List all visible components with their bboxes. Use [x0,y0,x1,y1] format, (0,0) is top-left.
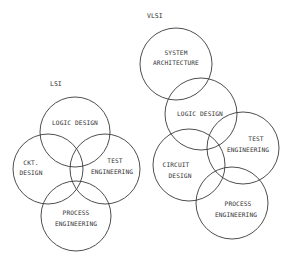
lsi-test-label-1: TEST [107,157,122,164]
lsi-test-label-2: ENGINEERING [91,168,133,175]
vlsi-title: VLSI [147,12,163,20]
venn-diagrams: LSI LOGIC DESIGN CKT. DESIGN TEST ENGINE… [0,0,289,264]
vlsi-process-label-1: PROCESS [225,200,252,207]
vlsi-test-label-2: ENGINEERING [227,146,269,153]
vlsi-system-label-2: ARCHITECTURE [153,59,199,66]
vlsi-system-label-1: SYSTEM [165,49,188,56]
lsi-process-label-2: ENGINEERING [55,220,97,227]
lsi-process-label-1: PROCESS [63,209,90,216]
vlsi-circuit-label-1: CIRCUIT [163,161,190,168]
vlsi-logic-design-label: LOGIC DESIGN [177,110,223,117]
lsi-ckt-label-2: DESIGN [20,169,43,176]
lsi-title: LSI [50,80,62,88]
lsi-ckt-label-1: CKT. [23,159,38,166]
vlsi-process-label-2: ENGINEERING [215,211,257,218]
lsi-process-engineering-circle [41,181,111,251]
lsi-logic-design-circle [40,97,110,167]
lsi-diagram: LSI LOGIC DESIGN CKT. DESIGN TEST ENGINE… [13,80,140,251]
vlsi-circuit-label-2: DESIGN [169,172,192,179]
vlsi-diagram: VLSI SYSTEM ARCHITECTURE LOGIC DESIGN TE… [140,12,279,239]
lsi-logic-design-label: LOGIC DESIGN [52,119,98,126]
vlsi-test-label-1: TEST [248,135,263,142]
